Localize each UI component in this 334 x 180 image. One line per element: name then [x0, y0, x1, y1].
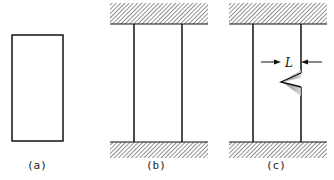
top-wall-hatch	[229, 3, 327, 24]
diagram-canvas: (a) (b) L (c)	[0, 0, 334, 180]
panel-b: (b)	[110, 3, 208, 172]
arrow-left-icon	[301, 60, 308, 65]
crack-length-label: L	[284, 56, 293, 70]
bottom-wall-hatch	[110, 142, 208, 158]
panel-b-label: (b)	[146, 159, 166, 172]
panel-c-label: (c)	[266, 159, 286, 172]
panel-a: (a)	[12, 35, 63, 172]
bottom-wall-hatch	[229, 142, 327, 158]
top-wall-hatch	[110, 3, 208, 24]
panel-c: L (c)	[229, 3, 327, 172]
specimen-rectangle	[12, 35, 63, 141]
arrow-right-icon	[274, 60, 281, 65]
panel-a-label: (a)	[27, 159, 47, 172]
